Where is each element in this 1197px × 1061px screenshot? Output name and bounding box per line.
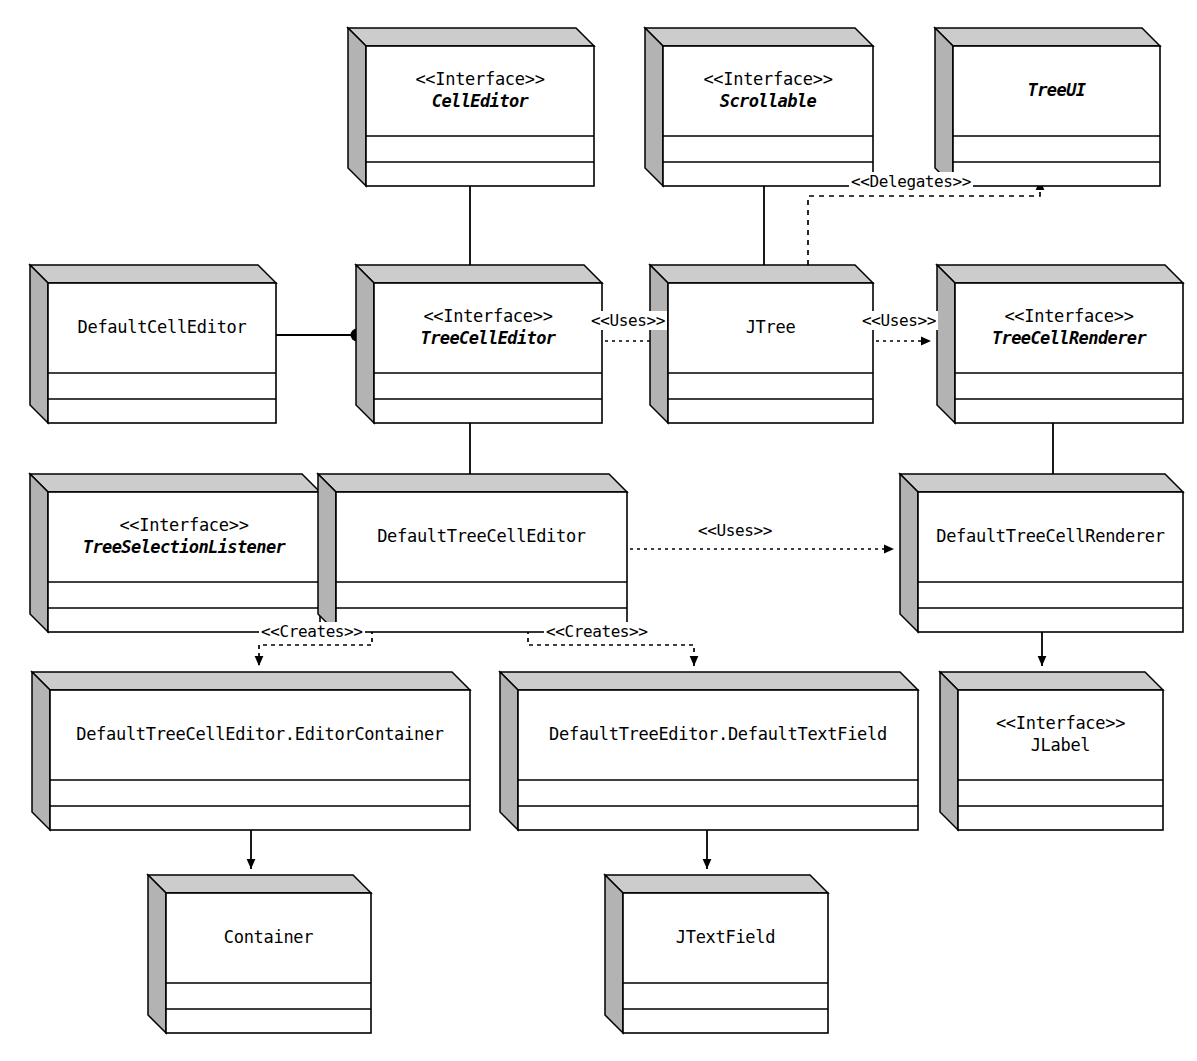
box-front-face: [668, 283, 873, 423]
box-top-face: [30, 265, 276, 283]
box-left-face: [650, 265, 668, 423]
class-node-scrollable[interactable]: <<Interface>>Scrollable: [645, 28, 873, 186]
box-top-face: [148, 875, 371, 893]
box-left-face: [30, 474, 48, 632]
class-node-cell-editor[interactable]: <<Interface>>CellEditor: [348, 28, 594, 186]
box-top-face: [30, 474, 320, 492]
box-left-face: [605, 875, 623, 1033]
edge-label-lbl-creates-2: <<Creates>>: [544, 622, 650, 641]
box-top-face: [348, 28, 594, 46]
box-front-face: [663, 46, 873, 186]
box-left-face: [32, 672, 50, 830]
box-top-face: [356, 265, 602, 283]
box-left-face: [318, 474, 336, 632]
class-box-shape: [500, 672, 918, 830]
box-front-face: [50, 690, 470, 830]
edge-label-lbl-uses-renderer2: <<Uses>>: [696, 521, 774, 540]
class-box-shape: [348, 28, 594, 186]
box-left-face: [148, 875, 166, 1033]
box-top-face: [935, 28, 1160, 46]
box-front-face: [48, 283, 276, 423]
box-top-face: [318, 474, 627, 492]
class-node-tree-cell-editor[interactable]: <<Interface>>TreeCellEditor: [356, 265, 602, 423]
box-front-face: [623, 893, 828, 1033]
class-node-jtextfield[interactable]: JTextField: [605, 875, 828, 1033]
class-node-tree-ui[interactable]: TreeUI: [935, 28, 1160, 186]
class-box-shape: [356, 265, 602, 423]
class-node-container[interactable]: Container: [148, 875, 371, 1033]
class-box-shape: [645, 28, 873, 186]
box-left-face: [348, 28, 366, 186]
class-node-tree-cell-renderer[interactable]: <<Interface>>TreeCellRenderer: [937, 265, 1183, 423]
box-front-face: [955, 283, 1183, 423]
class-node-tree-selection-listener[interactable]: <<Interface>>TreeSelectionListener: [30, 474, 320, 632]
box-front-face: [518, 690, 918, 830]
class-node-jlabel[interactable]: <<Interface>>JLabel: [940, 672, 1163, 830]
class-box-shape: [605, 875, 828, 1033]
box-front-face: [366, 46, 594, 186]
class-box-shape: [32, 672, 470, 830]
box-front-face: [166, 893, 371, 1033]
edge-label-lbl-creates-1: <<Creates>>: [259, 622, 365, 641]
box-front-face: [374, 283, 602, 423]
box-front-face: [918, 492, 1183, 632]
box-front-face: [958, 690, 1163, 830]
class-node-default-cell-editor[interactable]: DefaultCellEditor: [30, 265, 276, 423]
box-left-face: [935, 28, 953, 186]
edge-jtree-delegates-treeui: [808, 180, 1040, 265]
box-top-face: [500, 672, 918, 690]
box-top-face: [900, 474, 1183, 492]
edge-label-lbl-uses-renderer: <<Uses>>: [860, 311, 938, 330]
box-left-face: [940, 672, 958, 830]
box-front-face: [336, 492, 627, 632]
box-front-face: [953, 46, 1160, 186]
class-box-shape: [318, 474, 627, 632]
class-node-default-tree-cell-editor[interactable]: DefaultTreeCellEditor: [318, 474, 627, 632]
class-box-shape: [30, 265, 276, 423]
box-front-face: [48, 492, 320, 632]
box-left-face: [900, 474, 918, 632]
class-box-shape: [900, 474, 1183, 632]
class-box-shape: [937, 265, 1183, 423]
box-top-face: [650, 265, 873, 283]
box-top-face: [645, 28, 873, 46]
uml-diagram-canvas: CellEditor (generalization, open arrow) …: [0, 0, 1197, 1061]
box-left-face: [30, 265, 48, 423]
edge-label-lbl-delegates: <<Delegates>>: [849, 172, 973, 191]
box-left-face: [500, 672, 518, 830]
class-node-editor-container[interactable]: DefaultTreeCellEditor.EditorContainer: [32, 672, 470, 830]
box-top-face: [937, 265, 1183, 283]
edge-label-lbl-uses-editor: <<Uses>>: [589, 311, 667, 330]
box-top-face: [940, 672, 1163, 690]
class-box-shape: [650, 265, 873, 423]
box-top-face: [32, 672, 470, 690]
class-box-shape: [935, 28, 1160, 186]
class-node-default-text-field[interactable]: DefaultTreeEditor.DefaultTextField: [500, 672, 918, 830]
class-box-shape: [148, 875, 371, 1033]
class-box-shape: [30, 474, 320, 632]
box-left-face: [645, 28, 663, 186]
class-box-shape: [940, 672, 1163, 830]
box-left-face: [356, 265, 374, 423]
box-left-face: [937, 265, 955, 423]
class-node-default-tree-cell-renderer[interactable]: DefaultTreeCellRenderer: [900, 474, 1183, 632]
box-top-face: [605, 875, 828, 893]
class-node-jtree[interactable]: JTree: [650, 265, 873, 423]
